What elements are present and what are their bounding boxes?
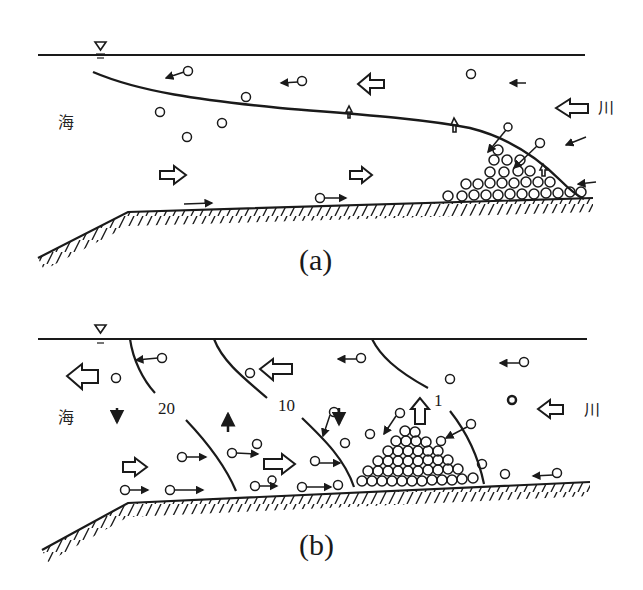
suspended-particles [112,354,562,495]
vertical-mixing-arrows [117,408,339,432]
panel-a-caption: (a) [299,243,332,277]
salinity-isolines [130,339,484,491]
flow-arrow-up [411,398,429,424]
river-label: 川 [584,400,600,419]
particle-motion-arrows [129,358,553,490]
flow-arrow-right-bottom-2 [264,454,295,474]
sea-label: 海 [58,113,74,132]
isoline-label-1: 1 [434,391,443,410]
flow-arrow-left-surface-2 [260,359,292,380]
flow-arrow-left-river [538,400,563,418]
particle-motion-arrows [166,72,596,204]
isoline-label-20: 20 [158,399,175,418]
panel-b: 20 10 1 [38,325,600,562]
flow-arrow-right-bottom-1 [160,166,186,184]
water-level-icon [95,325,106,343]
flow-arrow-right-bottom-1 [123,458,147,476]
flow-arrow-left-surface-1 [67,364,98,389]
river-label: 川 [598,98,614,117]
sediment-deposit [443,145,586,201]
sea-label: 海 [58,408,74,427]
flow-arrow-left-surface [358,74,384,94]
isoline-label-10: 10 [278,396,295,415]
suspended-particles [156,67,545,203]
flow-arrow-right-bottom-2 [350,167,372,183]
panel-b-caption: (b) [299,528,334,562]
flow-arrow-left-river [556,99,588,117]
estuary-diagram: 海 川 (a) 20 10 1 [0,0,643,590]
panel-a: 海 川 (a) [38,42,614,277]
